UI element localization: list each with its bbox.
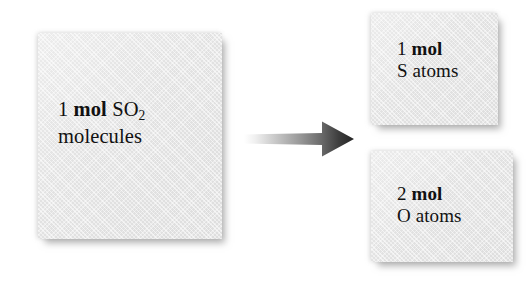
product-box-sulfur: 1 mol S atoms (371, 13, 498, 125)
reactant-quantity: 1 (58, 98, 68, 120)
product-sulfur-line-1: 1 mol (397, 38, 458, 60)
product-oxygen-label: 2 mol O atoms (397, 183, 462, 228)
reactant-unit: mol (74, 98, 107, 120)
product-sulfur-label: 1 mol S atoms (397, 38, 458, 83)
reactant-box: 1 mol SO2 molecules (38, 33, 222, 239)
right-arrow-icon (243, 118, 355, 160)
product-sulfur-unit: mol (411, 38, 442, 59)
product-box-oxygen: 2 mol O atoms (371, 151, 513, 262)
product-sulfur-line-2: S atoms (397, 60, 458, 82)
product-oxygen-unit: mol (411, 183, 442, 204)
reactant-line-1: 1 mol SO2 (58, 97, 145, 124)
reactant-line-2: molecules (58, 124, 145, 148)
reactant-formula: SO (112, 98, 138, 120)
mole-relationship-diagram: 1 mol SO2 molecules 1 (0, 0, 532, 281)
reactant-label: 1 mol SO2 molecules (58, 97, 145, 148)
product-sulfur-quantity: 1 (397, 38, 407, 59)
product-oxygen-line-1: 2 mol (397, 183, 462, 205)
reactant-formula-subscript: 2 (139, 108, 146, 123)
product-oxygen-line-2: O atoms (397, 205, 462, 227)
product-oxygen-quantity: 2 (397, 183, 407, 204)
